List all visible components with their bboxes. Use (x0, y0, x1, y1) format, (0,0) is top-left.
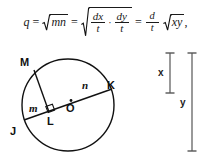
radicand-mn: mn (50, 14, 68, 31)
measure-bar-y: y (180, 53, 197, 151)
point-label-o: O (66, 102, 75, 114)
equals-sign-2: = (68, 15, 81, 30)
fraction-denominator: t (118, 23, 125, 34)
figure-canvas: q = mn = dx (0, 0, 211, 164)
fraction-numerator: d (148, 11, 157, 22)
equation-line: q = mn = dx (0, 2, 211, 42)
segment-label-n: n (82, 79, 88, 91)
fraction-dy-over-t: dy t (114, 11, 130, 34)
radicand-xy: xy (171, 14, 185, 31)
fraction-dx-over-t: dx t (90, 11, 106, 34)
multiplication-dot: · (106, 17, 113, 28)
radical-mn: mn (42, 14, 68, 31)
fraction-numerator: dx (91, 11, 105, 22)
radical-sign-icon (81, 7, 90, 37)
circle-geometry-diagram: M K L O J m n x y (0, 42, 211, 164)
measure-label-x: x (158, 67, 164, 78)
fraction-d-over-t: d t (145, 11, 160, 33)
radical-sign-icon (42, 14, 51, 31)
segment-label-m: m (29, 102, 38, 114)
point-label-l: L (47, 115, 54, 127)
fraction-denominator: t (149, 23, 156, 34)
point-label-j: J (10, 125, 16, 137)
trailing-comma: , (184, 15, 187, 30)
fraction-denominator: t (94, 23, 101, 34)
equals-sign-1: = (30, 15, 43, 30)
fraction-numerator: dy (115, 11, 129, 22)
radical-xy: xy (163, 14, 185, 31)
point-label-m: M (20, 56, 29, 68)
radical-sign-icon (163, 14, 172, 31)
radical-product: dx t · dy t (81, 7, 132, 37)
point-label-k: K (107, 79, 115, 91)
radicand-mn-text: mn (51, 15, 66, 30)
equals-sign-3: = (132, 15, 145, 30)
measure-label-y: y (180, 97, 186, 108)
radicand-xy-text: xy (172, 15, 183, 30)
measure-bar-x: x (158, 53, 175, 93)
radicand-product: dx t · dy t (89, 7, 132, 37)
